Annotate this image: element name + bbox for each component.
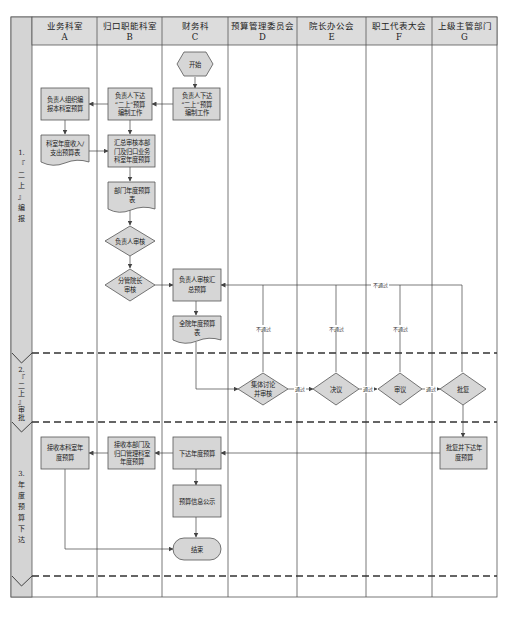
svg-text:支出预算表: 支出预算表: [50, 148, 81, 157]
svg-text:度: 度: [18, 491, 25, 500]
svg-text:批: 批: [18, 413, 25, 422]
pass-label: 通过: [363, 386, 373, 393]
svg-text:上: 上: [18, 389, 25, 398]
svg-text:并审核: 并审核: [254, 389, 273, 398]
svg-text:报: 报: [18, 214, 25, 223]
svg-text:1.: 1.: [18, 149, 25, 157]
lane-a-name: 业务科室: [47, 21, 83, 31]
process-g2: 批复并下达年 度预算: [440, 437, 487, 469]
svg-text:下达年度预算: 下达年度预算: [179, 449, 215, 458]
lane-d-letter: D: [259, 32, 266, 42]
svg-text:编: 编: [18, 203, 25, 212]
lane-c-name: 财务科: [182, 21, 209, 31]
svg-text:3.: 3.: [18, 470, 25, 478]
svg-text:负责人下达: 负责人下达: [182, 91, 213, 100]
svg-text:开始: 开始: [189, 60, 202, 69]
svg-text:“二上”预算: “二上”预算: [181, 100, 211, 109]
lane-d-name: 预算管理委员会: [231, 21, 294, 31]
reject-label: 不通过: [393, 326, 408, 333]
svg-text:下: 下: [18, 525, 25, 533]
budget-flowchart: 业务科室 A 归口职能科室 B 财务科 C 预算管理委员会 D 院长办公会 E …: [0, 0, 508, 617]
document-b3: 部门年度预算 表: [108, 182, 155, 212]
svg-text:编制工作: 编制工作: [118, 108, 143, 117]
process-c5: 预算信息公示: [173, 485, 221, 517]
svg-text:接收本部门及: 接收本部门及: [114, 440, 151, 449]
process-c2: 负责人审核汇 总预算: [173, 269, 221, 301]
svg-text:『: 『: [18, 160, 25, 168]
svg-text:『: 『: [18, 374, 25, 382]
process-b6: 接收本部门及 归口管理科室 年度预算: [108, 437, 155, 469]
svg-text:审核: 审核: [124, 285, 137, 294]
svg-text:预算信息公示: 预算信息公示: [179, 497, 215, 506]
process-c4: 下达年度预算: [173, 437, 221, 469]
svg-text:分管院长: 分管院长: [118, 276, 143, 285]
svg-text:部门年度预算: 部门年度预算: [114, 186, 150, 195]
start-node: 开始: [177, 52, 213, 76]
svg-text:上: 上: [18, 181, 25, 190]
lane-e-letter: E: [328, 32, 334, 42]
end-node: 结束: [173, 538, 221, 560]
svg-text:算: 算: [18, 513, 25, 522]
svg-text:编制工作: 编制工作: [185, 108, 210, 117]
lane-g-name: 上级主管部门: [438, 21, 492, 31]
svg-text:年度预算: 年度预算: [120, 457, 144, 466]
svg-text:』: 』: [18, 398, 25, 406]
lane-g-letter: G: [461, 32, 468, 42]
process-a3: 接收本科室年 度预算: [41, 437, 89, 469]
svg-text:负责人审核汇: 负责人审核汇: [179, 275, 215, 284]
lane-f-letter: F: [396, 32, 402, 42]
svg-text:门及归口业务: 门及归口业务: [114, 147, 151, 156]
phase-label-2: 2. 『 二 上 』 审 批: [18, 366, 25, 422]
lane-b-name: 归口职能科室: [103, 21, 157, 31]
svg-text:度预算: 度预算: [56, 453, 74, 462]
svg-text:』: 』: [18, 193, 25, 201]
lane-e-name: 院长办公会: [309, 21, 354, 31]
reject-label: 不通过: [373, 282, 388, 289]
svg-text:归口管理科室: 归口管理科室: [114, 449, 150, 458]
svg-text:“二上”预算: “二上”预算: [115, 100, 145, 109]
phase-label-3: 3. 年 度 预 算 下 达: [18, 470, 25, 544]
svg-text:审: 审: [18, 405, 25, 414]
pass-label: 通过: [295, 386, 305, 393]
process-b1: 负责人下达 “二上”预算 编制工作: [108, 88, 152, 120]
svg-text:二: 二: [18, 382, 25, 390]
svg-text:报本科室预算: 报本科室预算: [47, 104, 83, 113]
svg-text:负责人组织编: 负责人组织编: [47, 95, 83, 104]
process-b2: 汇总审核本部 门及归口业务 科室年度预算: [108, 135, 155, 167]
svg-text:2.: 2.: [18, 366, 25, 374]
svg-text:表: 表: [194, 328, 201, 337]
reject-label: 不通过: [256, 326, 271, 333]
svg-text:集体讨论: 集体讨论: [251, 380, 276, 389]
svg-text:二: 二: [18, 171, 25, 179]
reject-label: 不通过: [329, 326, 344, 333]
process-c1: 负责人下达 “二上”预算 编制工作: [173, 88, 220, 120]
svg-text:负责人下达: 负责人下达: [115, 91, 146, 100]
svg-text:决议: 决议: [330, 385, 343, 394]
svg-text:负责人审核: 负责人审核: [115, 237, 146, 246]
svg-text:批复: 批复: [457, 385, 470, 394]
svg-text:全院年度预算: 全院年度预算: [179, 319, 215, 328]
svg-text:批复并下达年: 批复并下达年: [446, 443, 482, 452]
svg-text:科室年度预算: 科室年度预算: [114, 155, 150, 164]
document-a2: 科室年度收入/ 支出预算表: [41, 135, 89, 165]
pass-label: 通过: [426, 386, 436, 393]
svg-text:总预算: 总预算: [188, 285, 206, 294]
svg-text:科室年度收入/: 科室年度收入/: [46, 139, 85, 148]
svg-text:审议: 审议: [394, 385, 407, 394]
lane-a-letter: A: [60, 32, 68, 42]
lane-c-letter: C: [192, 32, 199, 42]
svg-text:汇总审核本部: 汇总审核本部: [114, 138, 150, 147]
lane-b-letter: B: [126, 32, 132, 42]
phase-label-1: 1. 『 二 上 』 编 报: [18, 149, 25, 223]
svg-text:年: 年: [18, 480, 25, 489]
lane-f-name: 职工代表大会: [372, 21, 426, 31]
svg-text:接收本科室年: 接收本科室年: [47, 443, 83, 452]
svg-text:表: 表: [129, 195, 136, 204]
svg-text:度预算: 度预算: [455, 453, 473, 462]
svg-text:达: 达: [18, 535, 25, 544]
svg-text:预: 预: [18, 502, 25, 511]
svg-text:结束: 结束: [191, 545, 204, 554]
process-a1: 负责人组织编 报本科室预算: [41, 88, 89, 120]
